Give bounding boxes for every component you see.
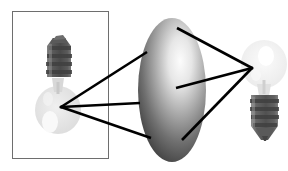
left-bulb-filament-post (57, 82, 60, 94)
right-convergence-node (250, 66, 253, 69)
center-ellipsoid (138, 18, 206, 162)
diagram-canvas (0, 0, 288, 171)
right-bulb-screw-base (250, 95, 279, 141)
diagram-svg (0, 0, 288, 171)
left-convergence-node (59, 105, 62, 108)
right-bulb-filament-post (263, 80, 266, 94)
right-bulb (241, 40, 287, 141)
